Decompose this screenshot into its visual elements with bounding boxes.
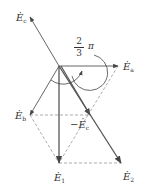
angle-pi-symbol: π [88,41,94,51]
angle-fraction: 2 3 [74,36,84,59]
label-Eb: ·Eb [15,111,26,122]
vector-E2 [59,66,121,163]
label-E2: ·E2 [123,172,134,183]
vector-Ec [30,17,59,66]
vector-Eb [30,66,59,115]
label-Ec: ·Ec [16,13,27,24]
label-neg-Ec: −·Ec [70,120,89,131]
label-E1: ·E1 [54,173,65,184]
label-Ea: ·Ea [123,62,134,73]
phasor-diagram [0,0,145,191]
